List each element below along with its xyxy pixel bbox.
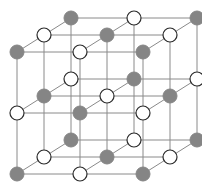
gray-ion bbox=[64, 133, 78, 147]
white-ion bbox=[136, 106, 150, 120]
white-ion bbox=[73, 167, 87, 181]
white-ion bbox=[64, 72, 78, 86]
gray-ion bbox=[127, 72, 141, 86]
white-ion bbox=[73, 45, 87, 59]
white-ion bbox=[190, 72, 202, 86]
gray-ion bbox=[136, 167, 150, 181]
white-ion bbox=[37, 150, 51, 164]
white-ion bbox=[127, 133, 141, 147]
gray-ion bbox=[10, 167, 24, 181]
gray-ion bbox=[136, 45, 150, 59]
gray-ion bbox=[100, 28, 114, 42]
gray-ion bbox=[73, 106, 87, 120]
gray-ion bbox=[190, 133, 202, 147]
crystal-lattice-diagram bbox=[0, 0, 202, 187]
gray-ion bbox=[64, 11, 78, 25]
white-ion bbox=[163, 150, 177, 164]
gray-ion bbox=[100, 150, 114, 164]
gray-ion bbox=[10, 45, 24, 59]
gray-ion bbox=[190, 11, 202, 25]
white-ion bbox=[127, 11, 141, 25]
atoms bbox=[10, 11, 202, 181]
gray-ion bbox=[163, 89, 177, 103]
white-ion bbox=[37, 28, 51, 42]
gray-ion bbox=[37, 89, 51, 103]
white-ion bbox=[10, 106, 24, 120]
white-ion bbox=[163, 28, 177, 42]
white-ion bbox=[100, 89, 114, 103]
